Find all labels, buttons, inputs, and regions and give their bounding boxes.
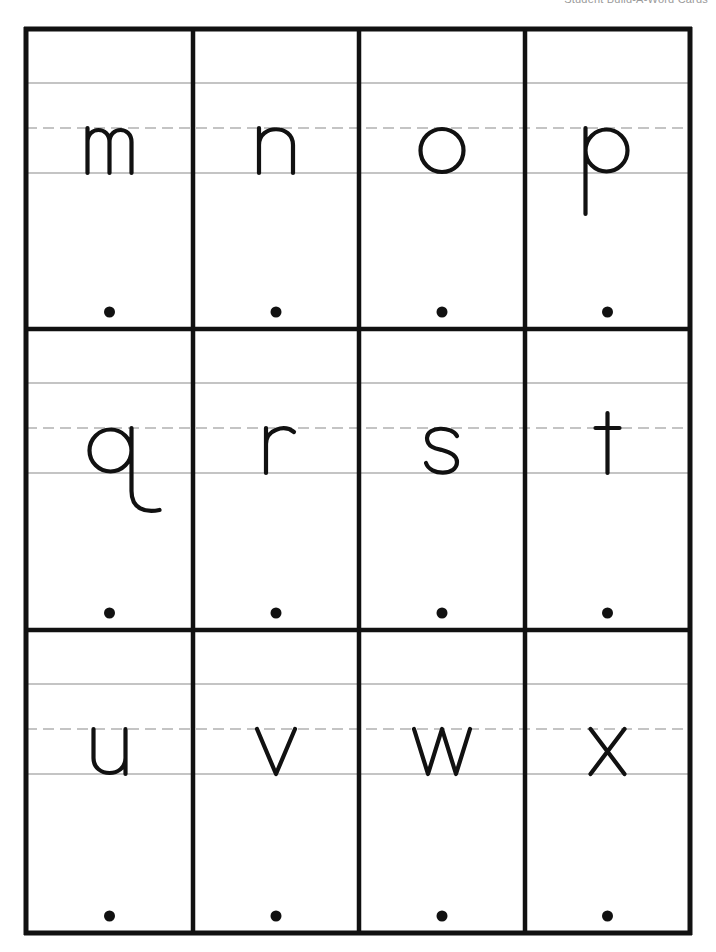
- letter-card-sheet: mnopqrstuvwx: [0, 0, 716, 952]
- letter-glyph-n: [259, 128, 293, 173]
- letter-card-v: v: [257, 729, 295, 922]
- letter-glyph-q: [90, 428, 160, 511]
- letter-card-n: n: [259, 128, 293, 318]
- card-dot: [437, 307, 448, 318]
- letter-glyph-o: [421, 129, 464, 172]
- letter-glyph-w: [414, 729, 470, 774]
- letter-card-p: p: [586, 128, 628, 318]
- letter-card-o: o: [421, 129, 464, 318]
- letter-glyph-r: [266, 428, 294, 473]
- card-dot: [104, 608, 115, 619]
- letter-card-t: t: [596, 413, 620, 619]
- card-dot: [602, 307, 613, 318]
- letter-card-x: x: [591, 729, 625, 922]
- card-dot: [271, 911, 282, 922]
- card-dot: [437, 608, 448, 619]
- letter-glyph-m: [88, 128, 132, 173]
- letter-glyph-v: [257, 729, 295, 774]
- letter-card-u: u: [94, 729, 126, 922]
- letter-glyph-s: [426, 429, 457, 473]
- card-dot: [602, 911, 613, 922]
- card-dot: [271, 608, 282, 619]
- letter-glyph-t: [596, 413, 620, 473]
- letter-card-w: w: [414, 729, 470, 922]
- letter-card-r: r: [266, 428, 294, 619]
- letter-card-s: s: [426, 429, 457, 619]
- letter-glyph-p: [586, 128, 628, 214]
- card-dot: [602, 608, 613, 619]
- letter-card-m: m: [88, 128, 132, 318]
- card-dot: [437, 911, 448, 922]
- letter-glyph-x: [591, 729, 625, 774]
- card-dot: [104, 911, 115, 922]
- letter-glyph-u: [94, 729, 126, 774]
- card-dot: [104, 307, 115, 318]
- card-dot: [271, 307, 282, 318]
- letter-card-q: q: [90, 428, 160, 619]
